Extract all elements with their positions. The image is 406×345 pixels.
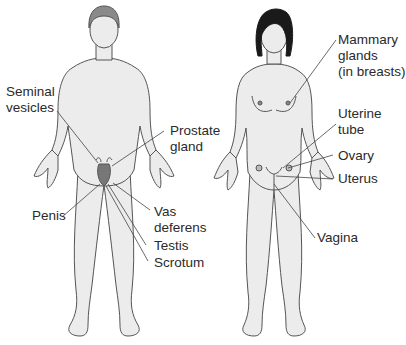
label-uterine-tube-line1: Uterine <box>338 106 382 122</box>
label-uterus: Uterus <box>338 171 378 187</box>
label-vas-deferens: Vas deferens <box>154 204 207 236</box>
label-prostate-line2: gland <box>170 139 220 155</box>
label-vas-deferens-line2: deferens <box>154 220 207 236</box>
label-mammary-glands: Mammary glands (in breasts) <box>338 32 406 80</box>
label-scrotum: Scrotum <box>154 255 204 271</box>
label-seminal-vesicles: Seminal vesicles <box>6 84 55 116</box>
label-testis: Testis <box>154 238 189 254</box>
label-vas-deferens-line1: Vas <box>154 204 207 220</box>
label-prostate-gland: Prostate gland <box>170 123 220 155</box>
label-seminal-vesicles-line2: vesicles <box>6 100 55 116</box>
label-uterine-tube-line2: tube <box>338 122 382 138</box>
label-vagina: Vagina <box>317 230 358 246</box>
label-penis: Penis <box>32 208 66 224</box>
label-seminal-vesicles-line1: Seminal <box>6 84 55 100</box>
label-mammary-line2: glands <box>338 48 406 64</box>
label-prostate-line1: Prostate <box>170 123 220 139</box>
female-figure <box>214 9 334 336</box>
label-mammary-line3: (in breasts) <box>338 64 406 80</box>
label-mammary-line1: Mammary <box>338 32 406 48</box>
label-uterine-tube: Uterine tube <box>338 106 382 138</box>
male-figure <box>34 6 174 336</box>
label-ovary: Ovary <box>338 148 374 164</box>
